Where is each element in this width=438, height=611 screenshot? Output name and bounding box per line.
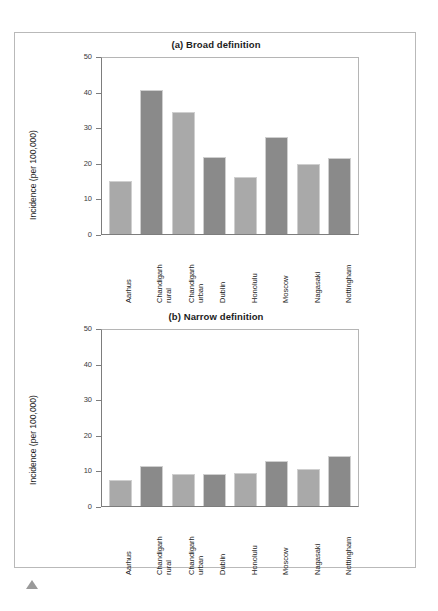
y-axis-tick-label: 0 xyxy=(88,230,92,239)
x-axis-tick: Chandigarh urban xyxy=(171,237,194,307)
y-axis-tick-label: 10 xyxy=(84,466,92,475)
bar xyxy=(172,112,195,234)
bar xyxy=(265,137,288,234)
y-axis-tick-label: 50 xyxy=(84,52,92,61)
x-axis-tick: Honolulu xyxy=(234,237,257,307)
y-axis-tick-label: 50 xyxy=(84,324,92,333)
x-axis-tick: Nottingham xyxy=(329,237,352,307)
x-axis-tick-label: Dublin xyxy=(218,513,227,575)
plot-area-b xyxy=(101,329,359,507)
plot-area-a xyxy=(101,57,359,235)
x-axis-tick-label: Honolulu xyxy=(250,241,259,303)
bar xyxy=(140,466,163,506)
y-axis-tick-label: 30 xyxy=(84,123,92,132)
bar xyxy=(234,473,257,506)
x-axis-tick-label: Dublin xyxy=(218,241,227,303)
y-axis-tick-label: 10 xyxy=(84,194,92,203)
bar xyxy=(203,474,226,506)
chart-panel-narrow-definition: (b) Narrow definition Incidence (per 100… xyxy=(15,311,417,569)
y-axis-tick-label: 20 xyxy=(84,431,92,440)
bar-series-a xyxy=(102,58,358,234)
x-axis-tick: Chandigarh rural xyxy=(140,237,163,307)
x-axis-tick: Dublin xyxy=(203,509,226,579)
bar xyxy=(172,474,195,506)
triangle-up-icon xyxy=(26,580,38,589)
bar-series-b xyxy=(102,330,358,506)
x-axis-tick: Moscow xyxy=(266,509,289,579)
y-axis-b: Incidence (per 100,000) 01020304050 xyxy=(15,311,101,569)
y-axis-label-b: Incidence (per 100,000) xyxy=(28,360,38,520)
y-axis-a: Incidence (per 100,000) 01020304050 xyxy=(15,39,101,311)
y-axis-tick-label: 40 xyxy=(84,360,92,369)
x-axis-tick: Aarhus xyxy=(108,237,131,307)
y-axis-tick-label: 30 xyxy=(84,395,92,404)
x-axis-tick-label: Aarhus xyxy=(124,513,133,575)
x-axis-labels-a: AarhusChandigarh ruralChandigarh urbanDu… xyxy=(101,237,359,307)
y-axis-tick-label: 40 xyxy=(84,88,92,97)
bar xyxy=(297,164,320,234)
x-axis-tick: Aarhus xyxy=(108,509,131,579)
y-axis-label-a: Incidence (per 100,000) xyxy=(28,95,38,255)
x-axis-tick: Honolulu xyxy=(234,509,257,579)
bar xyxy=(328,158,351,234)
y-axis-tick-label: 20 xyxy=(84,159,92,168)
bar xyxy=(265,461,288,506)
x-axis-tick: Dublin xyxy=(203,237,226,307)
bar xyxy=(109,181,132,234)
y-axis-tick-mark xyxy=(96,235,101,236)
bar xyxy=(109,480,132,506)
bar xyxy=(234,177,257,234)
bar xyxy=(328,456,351,506)
x-axis-tick: Nagasaki xyxy=(297,509,320,579)
y-axis-tick-label: 0 xyxy=(88,502,92,511)
x-axis-tick: Chandigarh urban xyxy=(171,509,194,579)
x-axis-tick-label: Nottingham xyxy=(344,241,353,303)
bar xyxy=(297,469,320,506)
x-axis-tick: Nagasaki xyxy=(297,237,320,307)
bar xyxy=(203,157,226,234)
x-axis-tick-label: Nagasaki xyxy=(313,513,322,575)
x-axis-tick-label: Moscow xyxy=(281,241,290,303)
x-axis-tick-label: Nottingham xyxy=(344,513,353,575)
bar xyxy=(140,90,163,234)
x-axis-tick-label: Moscow xyxy=(281,513,290,575)
chart-panel-broad-definition: (a) Broad definition Incidence (per 100,… xyxy=(15,39,417,311)
x-axis-tick-label: Honolulu xyxy=(250,513,259,575)
x-axis-tick: Chandigarh rural xyxy=(140,509,163,579)
x-axis-labels-b: AarhusChandigarh ruralChandigarh urbanDu… xyxy=(101,509,359,579)
x-axis-tick: Nottingham xyxy=(329,509,352,579)
y-axis-tick-mark xyxy=(96,507,101,508)
x-axis-tick: Moscow xyxy=(266,237,289,307)
x-axis-tick-label: Nagasaki xyxy=(313,241,322,303)
x-axis-tick-label: Aarhus xyxy=(124,241,133,303)
figure-frame: (a) Broad definition Incidence (per 100,… xyxy=(14,32,416,568)
